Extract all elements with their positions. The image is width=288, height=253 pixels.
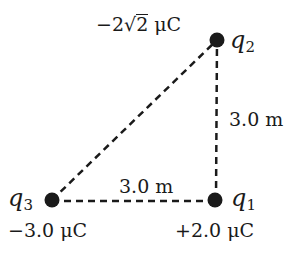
distance-label-q1-q2: 3.0 m (229, 110, 283, 129)
charge-dot-q2 (210, 33, 225, 48)
charge-value-q1: +2.0 μC (175, 221, 254, 240)
distance-label-q3-q1: 3.0 m (119, 177, 173, 196)
charge-label-q3: q3 (8, 186, 33, 213)
charge-dot-q3 (45, 193, 60, 208)
charge-label-q2: q2 (230, 28, 255, 55)
charge-value-q3: −3.0 μC (8, 221, 87, 240)
charge-dot-q1 (208, 193, 223, 208)
charge-value-q2: −2√2 μC (96, 14, 181, 34)
charge-label-q1: q1 (231, 186, 256, 213)
line-q1-q2 (216, 40, 217, 200)
